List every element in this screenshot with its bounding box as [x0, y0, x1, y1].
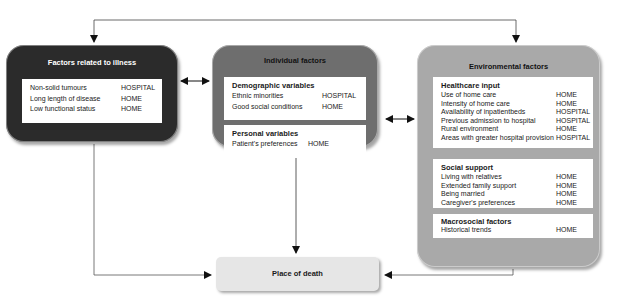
factor-value: HOME [121, 104, 142, 115]
factor-label: Caregiver's preferences [441, 199, 515, 208]
illness-panel: Non-solid tumours HOSPITAL Long length o… [22, 79, 162, 123]
section-heading: Macrosocial factors [441, 218, 585, 226]
healthcare-input-panel: Healthcare input Use of home care HOME I… [433, 77, 593, 148]
personal-variables-panel: Personal variables Patient's preferences… [224, 125, 366, 158]
factor-row: Previous admission to hospital HOSPITAL [441, 117, 585, 126]
factor-label: Good social conditions [232, 102, 302, 113]
demographic-variables-panel: Demographic variables Ethnic minorities … [224, 77, 366, 120]
factor-row: Living with relatives HOME [441, 173, 585, 182]
factor-row: Low functional status HOME [30, 104, 154, 115]
factor-row: Historical trends HOME [441, 226, 585, 235]
factor-label: Historical trends [441, 226, 491, 235]
factor-value: HOME [308, 139, 329, 150]
macrosocial-factors-panel: Macrosocial factors Historical trends HO… [433, 214, 593, 238]
factor-row: Availability of inpatientbeds HOSPITAL [441, 108, 585, 117]
section-heading: Personal variables [232, 129, 358, 139]
factor-label: Long length of disease [30, 94, 100, 105]
factors-related-to-illness-box: Factors related to illness Non-solid tum… [6, 45, 178, 142]
factor-value: HOME [556, 125, 577, 134]
connector-top [94, 20, 516, 42]
factor-row: Caregiver's preferences HOME [441, 199, 585, 208]
place-of-death-box: Place of death [216, 257, 379, 291]
factor-value: HOME [556, 173, 577, 182]
factor-row: Good social conditions HOME [232, 102, 358, 113]
factor-value: HOME [556, 182, 577, 191]
factor-label: Living with relatives [441, 173, 502, 182]
factor-value: HOSPITAL [556, 134, 590, 143]
factor-value: HOME [556, 190, 577, 199]
group-title: Factors related to illness [6, 58, 178, 67]
factor-value: HOME [556, 226, 577, 235]
factor-row: Extended family support HOME [441, 182, 585, 191]
factor-value: HOME [556, 199, 577, 208]
factor-label: Previous admission to hospital [441, 117, 536, 126]
factor-row: Rural environment HOME [441, 125, 585, 134]
factor-label: Being married [441, 190, 485, 199]
factor-row: Use of home care HOME [441, 91, 585, 100]
social-support-panel: Social support Living with relatives HOM… [433, 159, 593, 208]
factor-label: Areas with greater hospital provision [441, 134, 554, 143]
environmental-factors-box: Environmental factors Healthcare input U… [417, 45, 600, 267]
factor-row: Intensity of home care HOME [441, 100, 585, 109]
factor-value: HOSPITAL [121, 83, 155, 94]
section-heading: Demographic variables [232, 81, 358, 91]
factor-label: Ethnic minorities [232, 91, 283, 102]
group-title: Environmental factors [417, 62, 600, 71]
factor-row: Being married HOME [441, 190, 585, 199]
section-heading: Social support [441, 163, 585, 173]
factor-row: Areas with greater hospital provision HO… [441, 134, 585, 143]
factor-row: Patient's preferences HOME [232, 139, 358, 150]
factor-value: HOME [121, 94, 142, 105]
connector-illness-place [94, 144, 211, 275]
section-heading: Healthcare input [441, 81, 585, 91]
factor-label: Low functional status [30, 104, 95, 115]
factor-value: HOME [556, 100, 577, 109]
factor-row: Non-solid tumours HOSPITAL [30, 83, 154, 94]
factor-row: Long length of disease HOME [30, 94, 154, 105]
factor-label: Non-solid tumours [30, 83, 87, 94]
factor-label: Availability of inpatientbeds [441, 108, 525, 117]
factor-value: HOME [322, 102, 343, 113]
factor-label: Use of home care [441, 91, 496, 100]
outcome-label: Place of death [272, 269, 323, 278]
factor-row: Ethnic minorities HOSPITAL [232, 91, 358, 102]
connector-environmental-place [385, 269, 513, 275]
factor-value: HOSPITAL [556, 117, 590, 126]
factor-label: Rural environment [441, 125, 498, 134]
factor-label: Patient's preferences [232, 139, 298, 150]
factor-value: HOME [556, 91, 577, 100]
individual-factors-box: Individual factors Demographic variables… [212, 45, 378, 147]
group-title: Individual factors [212, 56, 378, 65]
factor-value: HOSPITAL [322, 91, 356, 102]
factor-label: Intensity of home care [441, 100, 510, 109]
factor-value: HOSPITAL [556, 108, 590, 117]
factor-label: Extended family support [441, 182, 516, 191]
